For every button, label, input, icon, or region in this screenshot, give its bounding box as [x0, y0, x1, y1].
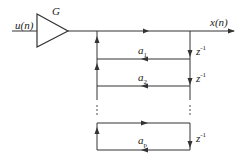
arrow-up-icon	[95, 63, 100, 70]
arrow-right-icon	[143, 29, 149, 34]
delay-label-2: z-1	[196, 72, 206, 84]
gain-amplifier-triangle	[37, 14, 68, 47]
arrow-right-icon	[228, 29, 235, 34]
delay-label-p: z-1	[196, 132, 206, 144]
input-label: u(n)	[15, 20, 33, 31]
coefficient-a1: a1	[138, 45, 147, 59]
arrow-down-icon	[188, 50, 193, 57]
arrow-right-icon	[141, 121, 148, 126]
coefficient-ap: ap	[138, 135, 147, 149]
delay-label-1: z-1	[196, 45, 206, 57]
output-label: x(n)	[210, 17, 228, 28]
arrow-down-icon	[188, 78, 193, 85]
arrow-down-icon	[188, 141, 193, 148]
coefficient-a2: a2	[138, 72, 147, 86]
arrow-up-icon	[95, 36, 100, 43]
gain-label: G	[52, 6, 60, 17]
arrow-up-icon	[95, 127, 100, 134]
